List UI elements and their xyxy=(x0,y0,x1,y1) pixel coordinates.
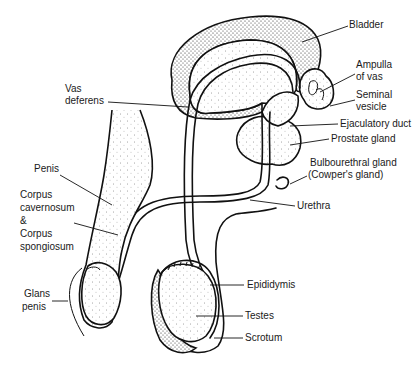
label-glans-penis: Glans penis xyxy=(22,288,53,312)
label-epididymis: Epididymis xyxy=(247,279,295,290)
glans-penis-shape xyxy=(82,263,121,325)
label-penis: Penis xyxy=(34,163,59,174)
diagram-drawing: Bladder Ampulla of vas Seminal vesicle E… xyxy=(0,0,418,370)
label-corpus: Corpus cavernosum & Corpus spongiosum xyxy=(20,189,77,252)
label-scrotum: Scrotum xyxy=(245,332,282,343)
label-bulbourethral-gland: Bulbourethral gland (Cowper's gland) xyxy=(308,157,400,180)
seminal-vesicle-shape xyxy=(300,69,334,109)
label-ampulla-of-vas: Ampulla of vas xyxy=(356,59,395,82)
label-prostate-gland: Prostate gland xyxy=(331,133,396,144)
label-vas-deferens: Vas deferens xyxy=(65,83,104,106)
label-seminal-vesicle: Seminal vesicle xyxy=(356,89,395,112)
label-bladder: Bladder xyxy=(349,19,384,30)
anatomy-diagram: Bladder Ampulla of vas Seminal vesicle E… xyxy=(0,0,418,370)
prostate xyxy=(237,116,301,165)
bulbourethral-gland-shape xyxy=(276,177,288,189)
label-testes: Testes xyxy=(245,310,274,321)
label-urethra: Urethra xyxy=(297,200,331,211)
label-ejaculatory-duct: Ejaculatory duct xyxy=(340,118,411,129)
